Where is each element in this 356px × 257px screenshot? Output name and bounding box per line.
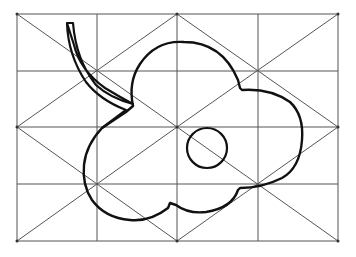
construction-grid xyxy=(16,13,340,243)
drawing-canvas: Leaf drawing on construction grid xyxy=(0,0,356,257)
leaf-outline xyxy=(84,42,303,220)
leaf-stem xyxy=(67,23,133,128)
